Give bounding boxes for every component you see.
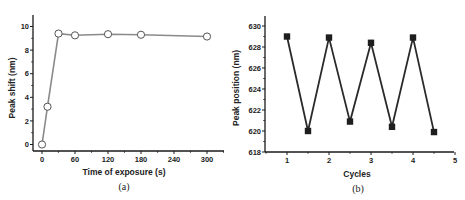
square-marker (347, 118, 353, 124)
y-axis-ticks: 0246810 (21, 22, 33, 149)
x-axis-title: Cycles (343, 169, 371, 179)
square-marker (326, 34, 332, 40)
circle-marker (203, 33, 210, 40)
y-tick-label: 8 (25, 46, 29, 55)
y-tick-label: 4 (25, 93, 30, 102)
data-series (284, 33, 437, 135)
y-tick-label: 6 (25, 69, 29, 78)
x-axis-ticks: 12345 (266, 152, 457, 165)
peak-shift-chart: 0246810 060120180240300 Time of exposure… (0, 0, 232, 200)
chart-panel-b: 618620622624626628630 12345 Cycles Peak … (232, 0, 465, 200)
data-series (38, 30, 210, 148)
y-tick-label: 10 (21, 22, 29, 31)
circle-marker (137, 31, 144, 38)
x-axis-ticks: 060120180240300 (40, 151, 224, 164)
x-tick-label: 120 (102, 155, 115, 164)
circle-marker (104, 31, 111, 38)
x-tick-label: 240 (168, 155, 181, 164)
y-axis-title: Peak shift (nm) (7, 57, 17, 118)
circle-marker (44, 103, 51, 110)
peak-position-chart: 618620622624626628630 12345 Cycles Peak … (232, 0, 465, 200)
y-tick-label: 628 (248, 43, 261, 52)
x-tick-label: 0 (40, 155, 44, 164)
circle-marker (55, 30, 62, 37)
circle-marker (38, 141, 45, 148)
x-tick-label: 300 (201, 155, 214, 164)
x-tick-label: 2 (327, 156, 331, 165)
series-line (42, 34, 207, 145)
y-tick-label: 622 (248, 106, 261, 115)
series-line (287, 37, 434, 133)
y-axis-ticks: 618620622624626628630 (248, 22, 265, 157)
y-tick-label: 626 (248, 64, 261, 73)
x-axis-title: Time of exposure (s) (83, 167, 166, 177)
y-tick-label: 630 (248, 22, 261, 31)
x-tick-label: 1 (285, 156, 289, 165)
x-tick-label: 60 (71, 155, 79, 164)
square-marker (431, 129, 437, 135)
square-marker (305, 128, 311, 134)
x-tick-label: 3 (369, 156, 373, 165)
square-marker (410, 34, 416, 40)
y-tick-label: 618 (248, 148, 261, 157)
square-marker (389, 124, 395, 130)
figure-caption: (b) (352, 183, 364, 195)
square-marker (284, 33, 290, 39)
y-tick-label: 0 (25, 140, 29, 149)
y-axis-title: Peak position (nm) (231, 50, 241, 126)
x-tick-label: 5 (453, 156, 457, 165)
x-tick-label: 180 (135, 155, 148, 164)
square-marker (368, 40, 374, 46)
figure-caption: (a) (118, 181, 129, 193)
x-tick-label: 4 (411, 156, 416, 165)
y-tick-label: 624 (248, 85, 261, 94)
y-tick-label: 620 (248, 127, 261, 136)
circle-marker (71, 32, 78, 39)
chart-panel-a: 0246810 060120180240300 Time of exposure… (0, 0, 232, 200)
y-tick-label: 2 (25, 117, 29, 126)
